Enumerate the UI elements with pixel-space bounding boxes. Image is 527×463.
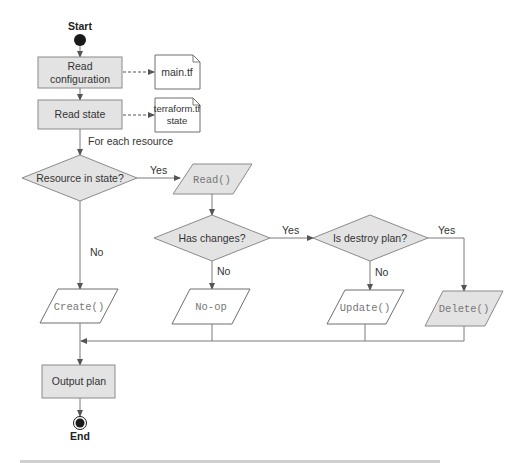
yes-label-destroy: Yes <box>438 224 455 236</box>
is-destroy-plan-label: Is destroy plan? <box>333 232 407 244</box>
state-file-label-2: state <box>167 115 188 126</box>
create-action-label: Create() <box>54 301 104 313</box>
edge-destroy-yes <box>428 238 464 291</box>
no-label-resource: No <box>90 246 104 258</box>
flowchart: Start Read configuration main.tf Read st… <box>0 0 527 463</box>
read-configuration-label-1: Read <box>67 60 92 72</box>
end-node <box>76 419 85 428</box>
no-label-changes: No <box>217 265 231 277</box>
no-label-destroy: No <box>375 266 389 278</box>
yes-label-changes: Yes <box>282 224 299 236</box>
update-action-label: Update() <box>340 302 390 314</box>
yes-label-resource: Yes <box>150 164 167 176</box>
has-changes-label: Has changes? <box>178 232 245 244</box>
start-label: Start <box>68 20 92 32</box>
output-plan-label: Output plan <box>52 375 106 387</box>
end-label: End <box>70 430 90 442</box>
delete-action-label: Delete() <box>439 303 489 315</box>
read-configuration-label-2: configuration <box>50 73 110 85</box>
start-node <box>74 34 86 46</box>
loop-label: For each resource <box>88 135 173 147</box>
resource-in-state-label: Resource in state? <box>36 172 124 184</box>
state-file-label-1: terraform.tf <box>154 103 201 114</box>
read-state-label: Read state <box>55 108 106 120</box>
noop-action-label: No-op <box>195 301 227 313</box>
read-action-label: Read() <box>193 174 231 186</box>
main-tf-label: main.tf <box>161 66 193 78</box>
